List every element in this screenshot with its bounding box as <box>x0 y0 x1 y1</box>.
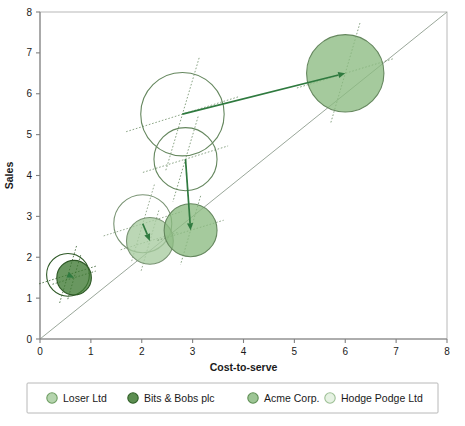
y-tick-label: 6 <box>26 88 32 99</box>
x-tick-label: 3 <box>190 346 196 357</box>
x-tick-label: 6 <box>342 346 348 357</box>
x-tick-label: 0 <box>37 346 43 357</box>
chart-legend[interactable]: Loser LtdBits & Bobs plcAcme Corp.Hodge … <box>27 383 438 413</box>
x-tick-label: 4 <box>241 346 247 357</box>
bubble-series <box>126 23 393 170</box>
x-axis-title: Cost-to-serve <box>210 361 278 373</box>
legend-swatch-icon <box>128 393 138 403</box>
y-tick-label: 3 <box>26 211 32 222</box>
legend-item-label: Bits & Bobs plc <box>144 392 215 404</box>
axis-titles: Cost-to-serveSales <box>3 162 277 373</box>
y-tick-label: 0 <box>26 334 32 345</box>
y-tick-label: 5 <box>26 129 32 140</box>
y-tick-label: 7 <box>26 47 32 58</box>
bubble-chart: 012345678012345678 Cost-to-serveSales Lo… <box>0 0 465 426</box>
legend-swatch-icon <box>248 393 258 403</box>
x-tick-label: 5 <box>292 346 298 357</box>
axis-ticks: 012345678012345678 <box>26 7 450 358</box>
y-tick-label: 2 <box>26 252 32 263</box>
bubble-series-layer <box>39 23 393 304</box>
y-tick-label: 8 <box>26 7 32 18</box>
legend-item-label: Hodge Podge Ltd <box>341 392 423 404</box>
legend-item-label: Loser Ltd <box>63 392 107 404</box>
x-tick-label: 7 <box>393 346 399 357</box>
y-tick-label: 4 <box>26 170 32 181</box>
y-tick-label: 1 <box>26 293 32 304</box>
legend-item-label: Acme Corp. <box>264 392 319 404</box>
legend-swatch-icon <box>325 393 335 403</box>
x-tick-label: 1 <box>88 346 94 357</box>
x-tick-label: 8 <box>444 346 450 357</box>
chart-canvas: 012345678012345678 Cost-to-serveSales Lo… <box>0 0 465 426</box>
y-axis-title: Sales <box>3 162 15 190</box>
legend-swatch-icon <box>47 393 57 403</box>
x-tick-label: 2 <box>139 346 145 357</box>
